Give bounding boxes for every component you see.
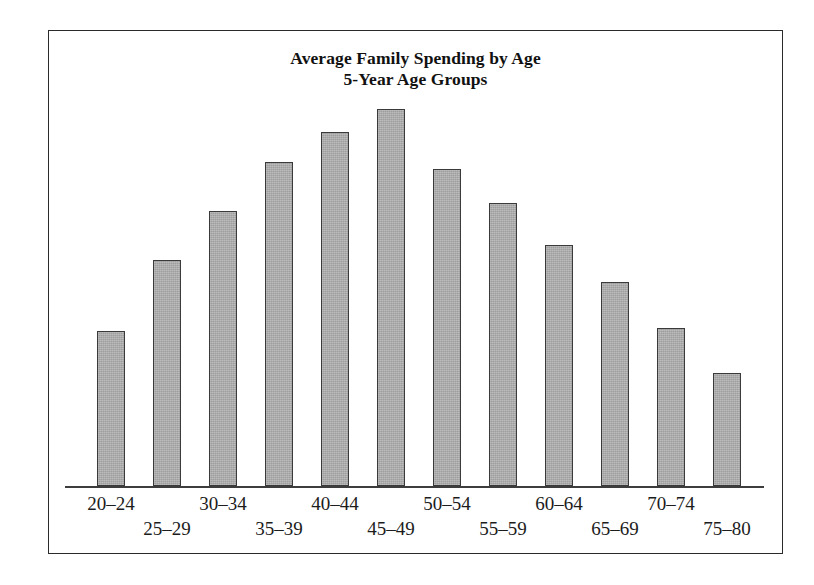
x-tick-label: 35–39 <box>239 518 319 540</box>
x-tick-label: 25–29 <box>127 518 207 540</box>
x-tick-label: 70–74 <box>631 493 711 515</box>
x-axis-line <box>65 486 764 488</box>
x-tick-label: 40–44 <box>295 493 375 515</box>
plot-area <box>87 109 747 486</box>
x-tick-label: 20–24 <box>71 493 151 515</box>
bar <box>209 211 237 486</box>
x-tick-label: 45–49 <box>351 518 431 540</box>
x-tick-label: 75–80 <box>687 518 767 540</box>
bar <box>657 328 685 486</box>
chart-title-line-2: 5-Year Age Groups <box>49 69 782 90</box>
x-axis-tick-labels: 20–2425–2930–3435–3940–4445–4950–5455–59… <box>87 491 747 551</box>
chart-title-line-1: Average Family Spending by Age <box>49 48 782 69</box>
bar-series <box>87 109 747 486</box>
chart-title: Average Family Spending by Age 5-Year Ag… <box>49 48 782 89</box>
bar <box>321 132 349 486</box>
bar <box>265 162 293 486</box>
bar <box>713 373 741 486</box>
bar <box>377 109 405 486</box>
x-tick-label: 65–69 <box>575 518 655 540</box>
bar <box>153 260 181 486</box>
x-tick-label: 30–34 <box>183 493 263 515</box>
bar <box>97 331 125 486</box>
chart-figure-frame: Average Family Spending by Age 5-Year Ag… <box>48 30 783 554</box>
x-tick-label: 60–64 <box>519 493 599 515</box>
x-tick-label: 55–59 <box>463 518 543 540</box>
x-tick-label: 50–54 <box>407 493 487 515</box>
bar <box>433 169 461 486</box>
bar <box>545 245 573 486</box>
bar <box>489 203 517 486</box>
bar <box>601 282 629 486</box>
